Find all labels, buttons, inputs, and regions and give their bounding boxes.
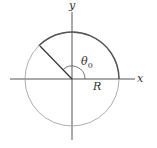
radius-line — [40, 46, 72, 79]
angle-symbol: θ — [81, 55, 88, 68]
highlighted-arc — [39, 32, 119, 79]
radius-label: R — [93, 81, 101, 92]
circle-diagram — [0, 0, 157, 148]
y-axis-label: y — [69, 0, 75, 11]
x-axis-label: x — [137, 73, 143, 84]
angle-subscript: 0 — [88, 61, 93, 70]
angle-label: θ0 — [81, 56, 93, 70]
diagram-canvas: y x θ0 R — [0, 0, 157, 148]
